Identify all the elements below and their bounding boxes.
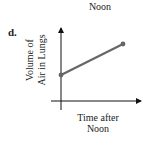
- data-point-end: [121, 42, 126, 47]
- x-axis-label-line1: Time after: [70, 112, 126, 123]
- x-axis-label: Time after Noon: [70, 112, 126, 134]
- data-point-start: [59, 73, 64, 78]
- x-axis-label-line2: Noon: [70, 123, 126, 134]
- data-line: [61, 44, 123, 75]
